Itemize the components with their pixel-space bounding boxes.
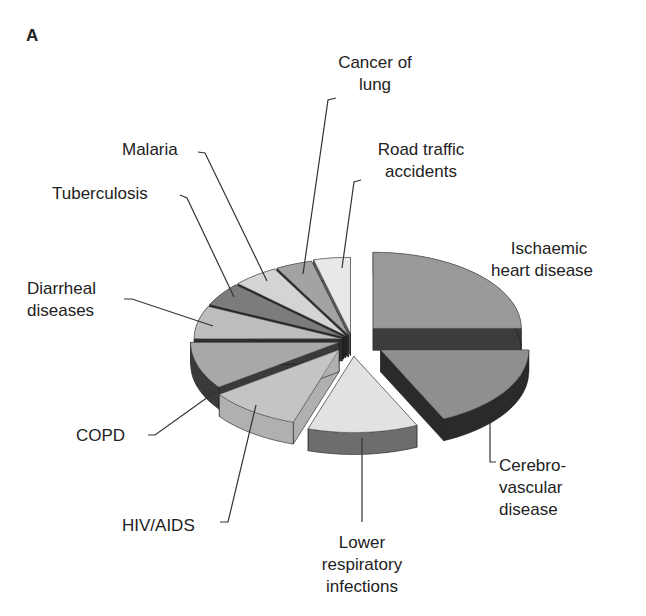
label-line: Road traffic [362,139,480,161]
leader-line [124,299,213,326]
label-line: Ischaemic [505,238,593,260]
leader-line [148,392,215,435]
label-line: vascular [499,477,566,499]
label-cerebrovascular-disease: Cerebro- vascular disease [499,455,566,521]
label-line: lung [325,74,425,96]
label-hiv-aids: HIV/AIDS [122,515,195,537]
label-line: Diarrheal [27,278,96,300]
label-line: Cerebro- [499,455,566,477]
leader-line [198,152,267,281]
leader-line [490,420,496,462]
label-line: infections [312,576,412,598]
label-line: Lower [312,532,412,554]
label-lower-respiratory-infections: Lower respiratory infections [312,532,412,598]
label-line: disease [499,499,566,521]
label-copd: COPD [76,425,125,447]
pie-chart [0,0,646,616]
label-line: respiratory [312,554,412,576]
leader-line [180,195,234,297]
label-ischaemic-heart-disease: Ischaemic heart disease [505,238,593,282]
label-line: accidents [362,161,480,183]
label-malaria: Malaria [122,139,178,161]
label-road-traffic-accidents: Road traffic accidents [362,139,480,183]
label-tuberculosis: Tuberculosis [52,183,148,205]
label-line: heart disease [491,260,593,282]
leader-line [342,180,361,268]
label-cancer-of-lung: Cancer of lung [325,52,425,96]
label-line: Cancer of [325,52,425,74]
leader-line [303,98,336,274]
label-line: diseases [27,300,96,322]
label-diarrheal-diseases: Diarrheal diseases [27,278,96,322]
